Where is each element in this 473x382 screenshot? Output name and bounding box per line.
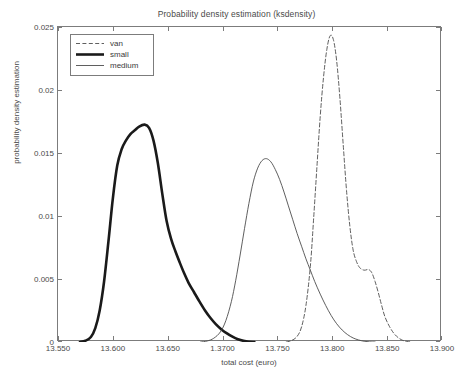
x-tick-mark [332,336,333,340]
y-tick-label: 0.01 [38,212,54,221]
legend-item-small[interactable]: small [75,49,149,60]
series-curve-small [80,125,254,342]
x-tick-label: 13.850 [375,344,399,353]
y-tick-mark-right [436,27,440,28]
chart-title: Probability density estimation (ksdensit… [0,9,473,19]
y-axis-label: probability density estimation [12,33,21,193]
legend-box[interactable]: vansmallmedium [70,34,154,76]
y-tick-mark [58,216,62,217]
legend-label-van: van [110,39,123,48]
y-tick-mark [58,90,62,91]
x-tick-label: 13.800 [320,344,344,353]
x-tick-mark-top [277,27,278,31]
x-tick-mark-top [223,27,224,31]
x-tick-mark-top [58,27,59,31]
y-tick-mark-right [436,153,440,154]
x-tick-mark [58,336,59,340]
y-tick-label: 0.025 [34,23,54,32]
legend-item-van[interactable]: van [75,38,149,49]
y-tick-mark-right [436,341,440,342]
x-tick-mark-top [441,27,442,31]
y-tick-label: 0.005 [34,275,54,284]
y-tick-mark [58,153,62,154]
x-tick-label: 13.900 [430,344,454,353]
x-tick-mark-top [113,27,114,31]
x-tick-label: 1.3700 [210,344,234,353]
legend-item-medium[interactable]: medium [75,60,149,71]
x-tick-mark [277,336,278,340]
x-tick-mark [168,336,169,340]
y-tick-label: 0.015 [34,149,54,158]
y-tick-mark-right [436,216,440,217]
x-tick-mark-top [332,27,333,31]
x-tick-mark [113,336,114,340]
y-tick-mark-right [436,90,440,91]
y-tick-mark-right [436,279,440,280]
legend-label-medium: medium [110,61,138,70]
legend-line-swatch-small [75,50,105,59]
x-tick-label: 13.600 [101,344,125,353]
legend-label-small: small [110,50,129,59]
x-tick-mark-top [387,27,388,31]
x-tick-label: 13.550 [46,344,70,353]
x-axis-label: total cost (euro) [57,358,441,367]
legend-line-swatch-medium [75,61,105,70]
x-tick-mark [387,336,388,340]
y-tick-mark [58,279,62,280]
series-curve-van [286,35,411,342]
legend-line-swatch-van [75,39,105,48]
x-tick-mark-top [168,27,169,31]
x-tick-mark [441,336,442,340]
y-tick-mark [58,341,62,342]
series-curve-medium [201,159,375,342]
x-tick-label: 13.650 [155,344,179,353]
x-tick-mark [223,336,224,340]
figure-canvas: Probability density estimation (ksdensit… [0,0,473,382]
plot-area: 00.0050.010.0150.020.025 13.55013.60013.… [57,26,441,341]
y-tick-label: 0.02 [38,86,54,95]
x-tick-label: 13.750 [265,344,289,353]
